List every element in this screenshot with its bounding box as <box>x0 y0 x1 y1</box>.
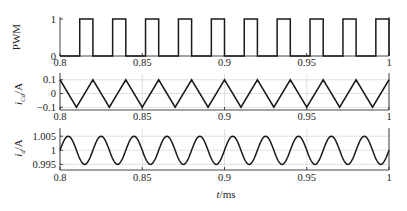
trace-pwm <box>60 19 389 56</box>
x-tick-label: 0.9 <box>218 111 231 122</box>
y-axis-label-pwm: PWM <box>10 24 22 51</box>
y-tick-label: 0 <box>51 88 56 99</box>
y-tick-label: 1.005 <box>32 131 56 142</box>
y-tick-label: 0.1 <box>43 74 56 85</box>
y-axis-label-icd: iCd/A <box>12 83 27 105</box>
panel-3: 0.80.850.90.9510.99511.005 <box>32 128 391 183</box>
panel-1: 0.80.850.90.95101 <box>51 14 392 69</box>
x-tick-label: 0.95 <box>298 57 316 68</box>
x-tick-label: 0.8 <box>53 172 66 183</box>
x-axis-label: t/ms <box>217 188 236 200</box>
y-tick-label: 0 <box>51 51 56 62</box>
x-tick-label: 0.95 <box>298 111 316 122</box>
figure: 0.80.850.90.951010.80.850.90.951−0.100.1… <box>0 0 407 211</box>
x-tick-label: 0.9 <box>218 57 231 68</box>
y-tick-label: −0.1 <box>37 102 56 113</box>
y-axis-label-id: id/A <box>12 139 27 157</box>
y-tick-label: 0.995 <box>32 159 56 170</box>
x-tick-label: 0.85 <box>133 172 151 183</box>
x-tick-label: 0.95 <box>298 172 316 183</box>
x-tick-label: 0.85 <box>133 57 151 68</box>
x-tick-label: 1 <box>386 111 391 122</box>
x-tick-label: 1 <box>386 57 391 68</box>
panel-2: 0.80.850.90.951−0.100.1 <box>37 73 392 122</box>
y-tick-label: 1 <box>51 145 56 156</box>
y-tick-label: 1 <box>51 14 56 25</box>
x-tick-label: 0.85 <box>133 111 151 122</box>
x-tick-label: 1 <box>386 172 391 183</box>
x-tick-label: 0.9 <box>218 172 231 183</box>
